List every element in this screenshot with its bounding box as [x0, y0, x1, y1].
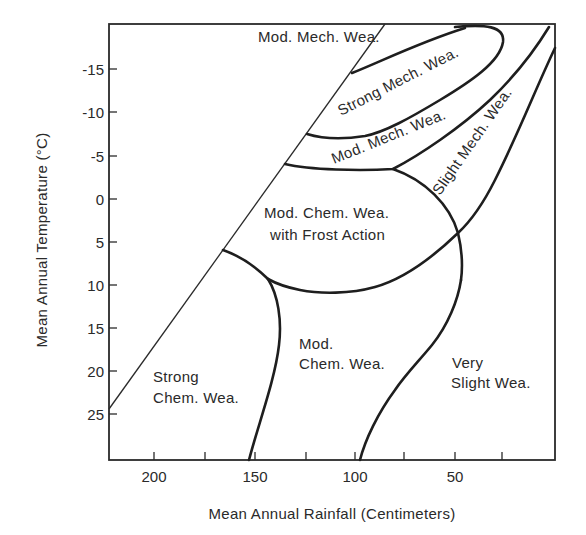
x-axis: 200 150 100 50 [141, 452, 502, 485]
y-tick-label: -10 [82, 104, 104, 121]
y-tick-label: 0 [96, 191, 104, 208]
label-strong-chem-line1: Strong [153, 368, 199, 385]
label-frost-line1: Mod. Chem. Wea. [264, 204, 389, 221]
x-tick-label: 100 [342, 468, 367, 485]
x-tick-label: 50 [447, 468, 464, 485]
y-tick-label: 20 [87, 363, 104, 380]
y-tick-label: 10 [87, 277, 104, 294]
label-mod-chem-line2: Chem. Wea. [299, 355, 385, 372]
boundary-slight-mech-right [268, 48, 555, 293]
y-tick-label: -15 [82, 61, 104, 78]
y-axis-title: Mean Annual Temperature (°C) [33, 132, 50, 347]
label-mod-chem-line1: Mod. [299, 335, 334, 352]
label-mod-mech-top: Mod. Mech. Wea. [258, 28, 380, 45]
boundary-frost-left [223, 250, 268, 279]
y-tick-label: -5 [91, 148, 104, 165]
label-strong-chem-line2: Chem. Wea. [153, 389, 239, 406]
boundary-strong-mod-chem [249, 279, 280, 460]
label-very-slight-line1: Very [452, 354, 483, 371]
boundary-frost-upper [393, 169, 462, 280]
y-axis: -15 -10 -5 0 5 10 15 20 25 [82, 61, 117, 423]
label-frost-line2: with Frost Action [269, 226, 385, 243]
label-very-slight-line2: Slight Wea. [451, 374, 531, 391]
weathering-diagram: -15 -10 -5 0 5 10 15 20 25 200 150 100 5… [0, 0, 586, 535]
x-tick-label: 200 [141, 468, 166, 485]
x-tick-label: 150 [242, 468, 267, 485]
label-slight-mech: Slight Mech. Wea. [429, 84, 516, 197]
y-tick-label: 5 [96, 234, 104, 251]
y-tick-label: 15 [87, 320, 104, 337]
x-axis-title: Mean Annual Rainfall (Centimeters) [209, 505, 456, 522]
y-tick-label: 25 [87, 406, 104, 423]
